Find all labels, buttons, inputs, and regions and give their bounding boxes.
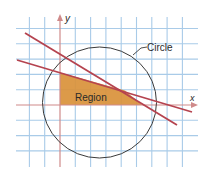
- x-axis-label: x: [189, 93, 195, 103]
- y-axis-label: y: [64, 13, 71, 24]
- diagram-figure: Circle Region y x: [0, 0, 205, 179]
- region-label: Region: [75, 92, 107, 103]
- circle-leader-line: [133, 47, 147, 55]
- circle-label: Circle: [147, 42, 173, 53]
- y-axis-arrow-icon: [57, 14, 63, 21]
